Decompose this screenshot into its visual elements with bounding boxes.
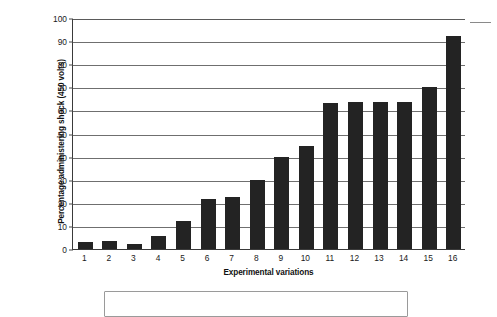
- x-tick-label: 15: [423, 253, 432, 263]
- x-axis-title: Experimental variations: [72, 268, 465, 277]
- x-tick-label: 8: [254, 253, 259, 263]
- bar: [274, 157, 289, 249]
- x-axis-ticks: 12345678910111213141516: [72, 253, 465, 269]
- bar: [201, 199, 216, 249]
- bar: [127, 244, 142, 249]
- x-tick-label: 7: [229, 253, 234, 263]
- y-tick-label: 10: [58, 222, 73, 232]
- y-tick-label: 70: [58, 83, 73, 93]
- x-tick-label: 1: [82, 253, 87, 263]
- bar: [102, 241, 117, 249]
- x-tick-label: 13: [374, 253, 383, 263]
- x-tick-label: 5: [180, 253, 185, 263]
- bar: [250, 180, 265, 249]
- x-tick-label: 14: [399, 253, 408, 263]
- y-tick-label: 30: [58, 176, 73, 186]
- y-tick-label: 90: [58, 37, 73, 47]
- x-tick-label: 11: [326, 253, 335, 263]
- y-tick-label: 60: [58, 106, 73, 116]
- x-tick-label: 4: [156, 253, 161, 263]
- bar: [323, 103, 338, 249]
- caption-box: [104, 291, 408, 317]
- x-tick-label: 2: [107, 253, 112, 263]
- bar: [348, 102, 363, 249]
- y-tick-label: 80: [58, 60, 73, 70]
- x-tick-label: 9: [278, 253, 283, 263]
- plot-area: 0102030405060708090100: [72, 19, 465, 250]
- x-tick-label: 10: [301, 253, 310, 263]
- bar-series: [73, 19, 465, 249]
- bar: [225, 197, 240, 249]
- bar: [446, 36, 461, 249]
- bar: [176, 221, 191, 249]
- x-tick-label: 12: [350, 253, 359, 263]
- bar: [373, 102, 388, 249]
- bar: [78, 242, 93, 249]
- x-tick-label: 3: [131, 253, 136, 263]
- y-tick-label: 20: [58, 199, 73, 209]
- x-tick-label: 16: [448, 253, 457, 263]
- top-right-rule: [470, 22, 491, 23]
- y-tick-label: 100: [53, 14, 73, 24]
- x-tick-label: 6: [205, 253, 210, 263]
- y-tick-label: 50: [58, 130, 73, 140]
- bar: [397, 102, 412, 249]
- bar: [299, 146, 314, 249]
- y-tick-label: 40: [58, 153, 73, 163]
- bar: [151, 236, 166, 249]
- bar: [422, 87, 437, 249]
